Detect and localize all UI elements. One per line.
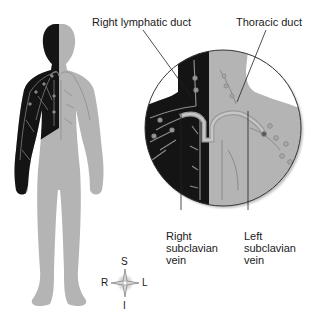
compass-inferior: I [123,300,126,312]
label-thoracic-duct: Thoracic duct [236,16,302,28]
compass-superior: S [121,256,128,268]
label-right-lymphatic-duct: Right lymphatic duct [92,16,191,28]
compass-right: R [101,277,108,289]
compass-rose [111,269,139,297]
label-left-subclavian-vein: Left subclavian vein [244,230,296,266]
compass-left: L [142,277,148,289]
magnified-inset [140,40,310,220]
body-figure [0,0,160,318]
lymphatic-diagram [0,0,313,318]
label-right-subclavian-vein: Right subclavian vein [166,230,218,266]
